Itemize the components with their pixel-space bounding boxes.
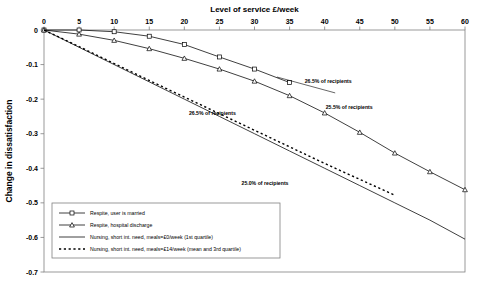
- x-tick-label: 60: [461, 18, 469, 25]
- chart-svg: Level of service £/week05101520253035404…: [0, 0, 478, 281]
- x-tick-label: 0: [42, 18, 46, 25]
- y-axis-label: Change in dissatisfaction: [4, 100, 14, 203]
- annotation-label: 25.5% of recipients: [326, 104, 373, 110]
- annotation-label: 26.5% of recipients: [189, 110, 236, 116]
- legend-item-label-0: Respite, user is married: [90, 210, 145, 216]
- series-marker-0: [147, 34, 151, 38]
- x-tick-label: 25: [216, 18, 224, 25]
- legend-item-label-2: Nursing, short int. need, meals=£0/week …: [90, 234, 213, 240]
- y-tick-label: 0: [34, 27, 38, 34]
- annotation-label: 26.5% of recipients: [305, 78, 352, 84]
- x-tick-label: 50: [391, 18, 399, 25]
- y-tick-label: -0.5: [26, 199, 38, 206]
- x-tick-label: 35: [286, 18, 294, 25]
- y-tick-label: -0.6: [26, 234, 38, 241]
- series-marker-1: [322, 111, 327, 115]
- series-marker-1: [463, 187, 468, 191]
- series-marker-0: [253, 67, 257, 71]
- series-marker-1: [428, 169, 433, 173]
- annotation-label: 25.0% of recipients: [242, 180, 289, 186]
- x-tick-label: 20: [180, 18, 188, 25]
- y-tick-label: -0.4: [26, 165, 38, 172]
- y-tick-label: -0.2: [26, 96, 38, 103]
- y-tick-label: -0.1: [26, 61, 38, 68]
- x-tick-label: 10: [110, 18, 118, 25]
- x-tick-label: 5: [77, 18, 81, 25]
- x-tick-label: 55: [426, 18, 434, 25]
- series-line-1: [44, 30, 465, 190]
- legend-item-label-1: Respite, hospital discharge: [90, 222, 152, 228]
- series-marker-1: [357, 130, 362, 134]
- series-marker-1: [392, 151, 397, 155]
- legend-swatch-marker-0: [70, 211, 74, 215]
- y-tick-label: -0.7: [26, 269, 38, 276]
- x-tick-label: 30: [251, 18, 259, 25]
- x-tick-label: 45: [356, 18, 364, 25]
- x-tick-label: 15: [145, 18, 153, 25]
- legend-item-label-3: Nursing, short int. need, meals=£14/week…: [90, 246, 241, 252]
- chart-title: Level of service £/week: [210, 5, 299, 14]
- chart-figure: Level of service £/week05101520253035404…: [0, 0, 478, 281]
- series-marker-0: [182, 43, 186, 47]
- y-tick-label: -0.3: [26, 130, 38, 137]
- series-marker-0: [217, 55, 221, 59]
- series-line-0: [44, 30, 290, 83]
- series-marker-0: [112, 30, 116, 34]
- x-tick-label: 40: [321, 18, 329, 25]
- series-marker-1: [287, 93, 292, 97]
